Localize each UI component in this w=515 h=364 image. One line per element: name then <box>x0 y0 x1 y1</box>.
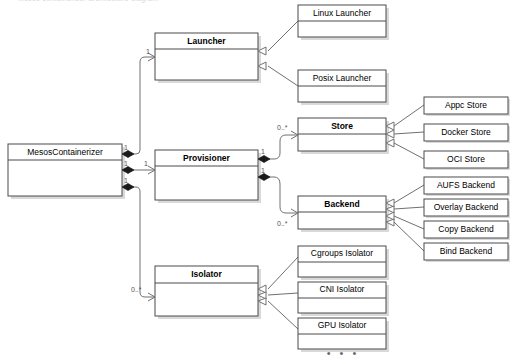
class-box-docker-store[interactable]: Docker Store <box>424 124 508 141</box>
connector-appc-store-store <box>394 105 424 126</box>
class-box-backend[interactable]: Backend <box>298 196 386 229</box>
class-box-aufs-backend[interactable]: AUFS Backend <box>424 177 508 194</box>
connector-aufs-backend-backend <box>394 185 424 203</box>
class-name-bind-backend: Bind Backend <box>440 246 493 256</box>
class-box-appc-store[interactable]: Appc Store <box>424 97 508 114</box>
class-name-mesos-containerizer: MesosContainerizer <box>27 147 103 157</box>
class-name-docker-store: Docker Store <box>441 127 491 137</box>
multiplicity-mc-prov-src: 1 <box>124 160 128 167</box>
multiplicity-provisioner-target: 1 <box>144 160 148 167</box>
class-name-store: Store <box>331 121 353 131</box>
diagram-canvas: Mesos containerizer architecture diagram <box>0 0 515 364</box>
connector-provisioner-store <box>264 135 298 159</box>
class-box-provisioner[interactable]: Provisioner <box>155 150 258 200</box>
class-name-oci-store: OCI Store <box>447 154 485 164</box>
connector-gpu-isolator-isolator <box>268 301 298 329</box>
connector-posix-launcher-launcher <box>268 66 298 86</box>
connector-linux-launcher-launcher <box>268 21 298 51</box>
connector-oci-store-store <box>394 143 424 159</box>
multiplicity-backend-target: 0..* <box>277 220 288 227</box>
class-name-posix-launcher: Posix Launcher <box>313 73 372 83</box>
class-box-oci-store[interactable]: OCI Store <box>424 151 508 168</box>
class-name-linux-launcher: Linux Launcher <box>313 8 371 18</box>
class-box-linux-launcher[interactable]: Linux Launcher <box>298 5 386 37</box>
class-name-overlay-backend: Overlay Backend <box>434 202 499 212</box>
multiplicity-isolator-target: 0..* <box>131 286 142 293</box>
class-name-copy-backend: Copy Backend <box>438 224 494 234</box>
class-name-aufs-backend: AUFS Backend <box>437 180 495 190</box>
class-box-cni-isolator[interactable]: CNI Isolator <box>298 282 386 313</box>
class-name-cgroups-isolator: Cgroups Isolator <box>311 248 374 258</box>
class-box-gpu-isolator[interactable]: GPU Isolator <box>298 318 386 349</box>
class-box-store[interactable]: Store <box>298 118 386 151</box>
connector-cni-isolator-isolator <box>268 293 298 295</box>
class-box-copy-backend[interactable]: Copy Backend <box>424 221 508 238</box>
connector-mc-isolator <box>128 187 155 297</box>
multiplicity-mc-isolator-src: 1 <box>124 177 128 184</box>
class-name-cni-isolator: CNI Isolator <box>320 284 365 294</box>
multiplicity-launcher-target: 1 <box>146 48 150 55</box>
connector-overlay-backend-backend <box>394 207 424 209</box>
connector-mc-launcher <box>128 57 155 154</box>
class-box-bind-backend[interactable]: Bind Backend <box>424 243 508 260</box>
multiplicity-mc-launcher-src: 1 <box>124 144 128 151</box>
class-name-appc-store: Appc Store <box>445 100 487 110</box>
connector-copy-backend-backend <box>394 216 424 229</box>
connector-bind-backend-backend <box>394 222 424 251</box>
multiplicity-prov-store-src: 1 <box>261 148 265 155</box>
uml-class-diagram: MesosContainerizer Launcher Provisioner … <box>0 0 515 364</box>
more-isolators-ellipsis: • • • <box>327 347 360 359</box>
connector-provisioner-backend <box>264 177 298 213</box>
connector-docker-store-store <box>394 132 424 134</box>
class-box-isolator[interactable]: Isolator <box>155 266 258 316</box>
class-name-launcher: Launcher <box>187 36 226 46</box>
class-box-overlay-backend[interactable]: Overlay Backend <box>424 199 508 216</box>
class-box-cgroups-isolator[interactable]: Cgroups Isolator <box>298 246 386 277</box>
class-box-posix-launcher[interactable]: Posix Launcher <box>298 70 386 102</box>
class-name-provisioner: Provisioner <box>183 153 230 163</box>
class-box-mesos-containerizer[interactable]: MesosContainerizer <box>8 144 122 196</box>
class-name-isolator: Isolator <box>191 269 222 279</box>
multiplicity-store-target: 0..* <box>277 124 288 131</box>
multiplicity-prov-backend-src: 1 <box>261 167 265 174</box>
class-name-backend: Backend <box>324 199 359 209</box>
class-box-launcher[interactable]: Launcher <box>155 33 258 80</box>
class-name-gpu-isolator: GPU Isolator <box>318 320 367 330</box>
connector-cgroups-isolator-isolator <box>268 257 298 289</box>
